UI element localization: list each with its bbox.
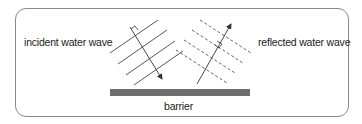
incident-wavefront-3 <box>126 41 175 75</box>
reflected-ray-arrow <box>197 24 231 84</box>
incident-wavefront-1 <box>110 20 158 53</box>
incident-wavefronts <box>110 20 183 85</box>
reflected-wave-label: reflected water wave <box>258 36 350 48</box>
reflected-wavefronts <box>176 20 251 83</box>
barrier <box>110 89 250 96</box>
reflected-wavefront-3 <box>184 40 235 73</box>
barrier-label: barrier <box>164 100 193 112</box>
incident-wavefront-4 <box>134 51 183 85</box>
incident-right-angle-icon <box>131 26 138 30</box>
reflected-wavefront-4 <box>176 50 227 83</box>
incident-wave-label: incident water wave <box>24 36 112 48</box>
reflected-wavefront-1 <box>200 20 251 53</box>
